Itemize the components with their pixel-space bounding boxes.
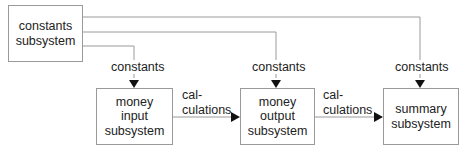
money-output-subsystem-node: money output subsystem [240, 88, 315, 145]
node-label: subsystem [105, 124, 165, 139]
edge-label-constants-to-input: constants [110, 60, 166, 74]
edge-label-output-to-summary: cal- culations [323, 88, 372, 117]
constants-subsystem-node: constants subsystem [8, 5, 83, 62]
edge-label-constants-to-output: constants [251, 60, 307, 74]
node-label: subsystem [391, 117, 451, 132]
arrowhead-icon [415, 80, 425, 88]
summary-subsystem-node: summary subsystem [383, 88, 459, 145]
edge-label-constants-to-summary: constants [394, 60, 450, 74]
node-label: subsystem [248, 124, 308, 139]
arrowhead-icon [271, 80, 281, 88]
node-label: output [248, 109, 308, 124]
node-label: input [105, 109, 165, 124]
arrowhead-icon [231, 112, 240, 122]
node-label: money [105, 95, 165, 110]
node-label: money [248, 95, 308, 110]
edge-label-input-to-output: cal- culations [182, 88, 231, 117]
money-input-subsystem-node: money input subsystem [96, 88, 173, 145]
node-label: constants [16, 19, 76, 34]
arrowhead-icon [374, 112, 383, 122]
node-label: subsystem [16, 34, 76, 49]
arrowhead-icon [129, 80, 139, 88]
node-label: summary [391, 102, 451, 117]
